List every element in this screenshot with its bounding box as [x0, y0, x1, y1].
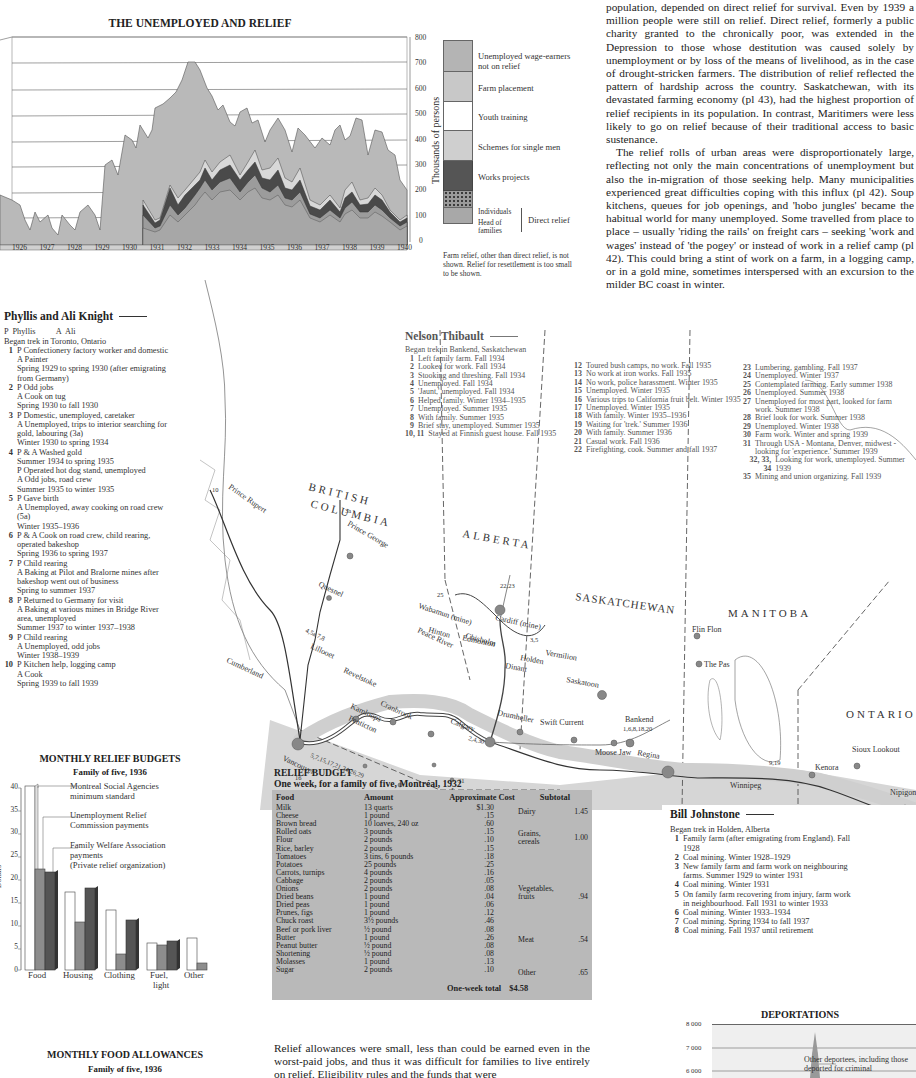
thibault-biography-col3: 23Lumbering, gambling. Fall 193724Unempl… — [742, 364, 912, 482]
x-label-food: Food — [28, 970, 46, 980]
item-line: Summer 1934 to spring 1935 — [17, 457, 146, 466]
cell-cost: .15 — [442, 828, 522, 836]
legend-stack — [443, 40, 473, 246]
cell-subtotal — [522, 861, 588, 869]
deportations-label: Other deportees, including those deporte… — [804, 1055, 914, 1073]
budgets-legend-s3a: Family Welfare Association payments — [70, 841, 190, 860]
intro-text: population, depended on direct relief fo… — [606, 1, 914, 291]
map-place: Cardiff (mine) — [495, 613, 542, 631]
cell-cost: .08 — [442, 926, 522, 934]
item-line: P Confectionery factory worker and domes… — [17, 346, 168, 355]
route-label: 10 — [212, 486, 219, 493]
list-item: 2Coal mining. Winter 1928–1929 — [670, 853, 855, 862]
budgets-title: MONTHLY RELIEF BUDGETS — [0, 753, 220, 764]
johnstone-start: Began trek in Holden, Alberta — [670, 825, 855, 834]
item-number: 4 — [670, 880, 683, 889]
item-line: Spring 1936 to spring 1937 — [17, 549, 150, 558]
x-tick: 1930 — [122, 243, 137, 253]
item-line: P Kitchen help, logging camp — [17, 660, 116, 669]
cell-cost: .15 — [442, 845, 522, 853]
y-tick: 500 — [415, 109, 426, 119]
x-tick: 1938 — [342, 243, 357, 253]
item-text: On family farm recovering from injury, f… — [683, 890, 855, 908]
map-place: Drumheller — [497, 708, 535, 725]
x-label-fuel-line2: light — [153, 980, 169, 990]
map-place: Swift Current — [540, 718, 585, 727]
unemployed-area-chart — [0, 30, 420, 255]
list-item: 10, 11Stayed at Finnish guest house. Fal… — [405, 430, 575, 438]
budgets-legend-s3b: (Private relief organization) — [70, 861, 210, 871]
item-line: A Unemployed, odd jobs — [17, 642, 100, 651]
item-number: 5 — [4, 494, 17, 531]
map-place: Wabamun (mine) — [417, 601, 473, 627]
y-tick: 800 — [415, 33, 426, 43]
legend-swatch-head — [443, 208, 473, 224]
item-text: Unemployed for most part, looked for far… — [755, 398, 912, 415]
item-line: A Odd jobs, road crew — [17, 475, 146, 484]
y-tick: 6 000 — [686, 1066, 701, 1076]
y-tick: 35 — [11, 805, 18, 815]
budgets-legend-s2: Unemployment Relief Commission payments — [70, 811, 180, 830]
item-line: P Child rearing — [17, 633, 100, 642]
table-row: Shortening½ pound.08 — [276, 950, 588, 958]
list-item: 4P & A Washed goldSummer 1934 to spring … — [4, 448, 204, 494]
cell-food: Sugar — [276, 966, 364, 974]
table-row: Carrots, turnips4 pounds.16 — [276, 869, 588, 877]
food-allowances-subtitle: Family of five, 1936 — [0, 1064, 250, 1074]
list-item: 1P Confectionery factory worker and dome… — [4, 346, 204, 383]
cell-subtotal — [522, 917, 588, 925]
cell-cost: .13 — [442, 958, 522, 966]
item-line: P & A Washed gold — [17, 448, 146, 457]
knight-key: P Phyllis A Ali — [4, 327, 204, 336]
thibault-title: Nelson Thibault — [405, 332, 575, 340]
y-tick: 15 — [11, 896, 18, 906]
x-tick: 1926 — [12, 243, 27, 253]
cell-subtotal — [522, 820, 588, 828]
item-text: New family farm and farm work on neighbo… — [683, 862, 855, 880]
item-line: bakeshop went out of business — [17, 577, 159, 586]
johnstone-title: Bill Johnstone — [670, 810, 855, 819]
cell-subtotal — [522, 909, 588, 917]
map-place: Prince Rupert — [227, 482, 269, 515]
item-number: 35 — [742, 473, 755, 481]
subtotal-vegetables: Vegetables, fruits.94 — [518, 885, 588, 901]
map-place: Kenora — [815, 763, 839, 772]
y-tick: 30 — [11, 827, 18, 837]
cell-cost: .12 — [442, 909, 522, 917]
list-item: 5P Gave birthA Unemployed, away cooking … — [4, 494, 204, 531]
cell-cost: $1.30 — [442, 804, 522, 812]
item-line: P Child rearing — [17, 559, 159, 568]
item-line: Summer 1937 to winter 1937–1938 — [17, 623, 159, 632]
intro-paragraph-1: population, depended on direct relief fo… — [606, 1, 914, 146]
relief-budget-subtitle: One week, for a family of five, Montréal… — [274, 778, 462, 789]
list-item: 35Mining and union organizing. Fall 1939 — [742, 473, 912, 481]
y-tick: 10 — [11, 919, 18, 929]
legend-swatch-schemes — [443, 131, 473, 161]
cell-cost: .08 — [442, 950, 522, 958]
legend-label: Unemployed wage-earners not on relief — [478, 52, 573, 71]
item-number: 10, 11 — [405, 430, 428, 438]
item-number: 3 — [4, 411, 17, 448]
item-line: Spring 1939 to fall 1939 — [17, 679, 116, 688]
subtotal-dairy: Dairy1.45 — [518, 808, 588, 816]
item-line: A Baking at various mines in Bridge Rive… — [17, 605, 159, 614]
item-line: P Returned to Germany for visit — [17, 596, 159, 605]
route-label: 25 — [437, 591, 444, 598]
map-label-ontario: ONTARIO — [846, 708, 916, 720]
list-item: 6Coal mining. Winter 1933–1934 — [670, 908, 855, 917]
item-number: 3 — [670, 862, 683, 880]
map-place: Revelstoke — [342, 666, 378, 689]
list-item: 6P & A Cook on road crew, child rearing,… — [4, 531, 204, 559]
item-number: 2 — [670, 853, 683, 862]
legend-label: Works projects — [478, 173, 530, 183]
list-item: 2P Odd jobsA Cook on tugSpring 1930 to f… — [4, 383, 204, 411]
map-place: Nipigon — [890, 788, 916, 797]
map-place: Moose Jaw — [595, 748, 631, 757]
cell-cost: .15 — [442, 812, 522, 820]
budgets-y-label: Dollars — [0, 857, 3, 897]
map-place: Flin Flon — [692, 625, 722, 634]
item-line: area, unemployed — [17, 614, 159, 623]
subtotal-other: Other.65 — [518, 969, 588, 977]
knight-biography: Phyllis and Ali Knight P Phyllis A Ali B… — [4, 312, 204, 688]
cell-amount: 2 pounds — [364, 966, 442, 974]
